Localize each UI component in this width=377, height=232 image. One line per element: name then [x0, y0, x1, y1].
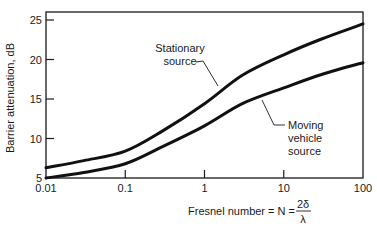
leader-line-moving [262, 100, 285, 125]
annotation-moving-line2: vehicle [288, 132, 322, 144]
y-tick-label: 15 [30, 93, 42, 105]
x-tick-label: 1 [201, 182, 207, 194]
chart: 510152025 0.010.1110100 Barrier attenuat… [0, 0, 377, 232]
y-tick-label: 10 [30, 133, 42, 145]
x-axis-label: Fresnel number = N = 2δ λ [188, 198, 311, 225]
y-axis-label: Barrier attenuation, dB [4, 43, 16, 153]
annotation-stationary-line2: source [163, 55, 196, 67]
x-tick-label: 10 [278, 182, 290, 194]
leader-line-stationary [196, 61, 218, 86]
x-tick-label: 0.1 [118, 182, 133, 194]
y-tick-label: 25 [30, 14, 42, 26]
annotation-stationary-line1: Stationary [155, 42, 205, 54]
x-axis-label-denominator: λ [300, 213, 306, 225]
x-axis-label-numerator: 2δ [297, 198, 309, 210]
annotation-moving: Moving vehicle source [262, 100, 323, 157]
y-axis-ticks: 510152025 [30, 14, 54, 184]
x-tick-label: 0.01 [35, 182, 56, 194]
y-tick-label: 20 [30, 54, 42, 66]
annotation-stationary: Stationary source [155, 42, 218, 86]
annotation-moving-line3: source [288, 145, 321, 157]
x-tick-label: 100 [354, 182, 372, 194]
annotation-moving-line1: Moving [288, 119, 323, 131]
x-axis-label-prefix: Fresnel number = N = [188, 205, 295, 217]
